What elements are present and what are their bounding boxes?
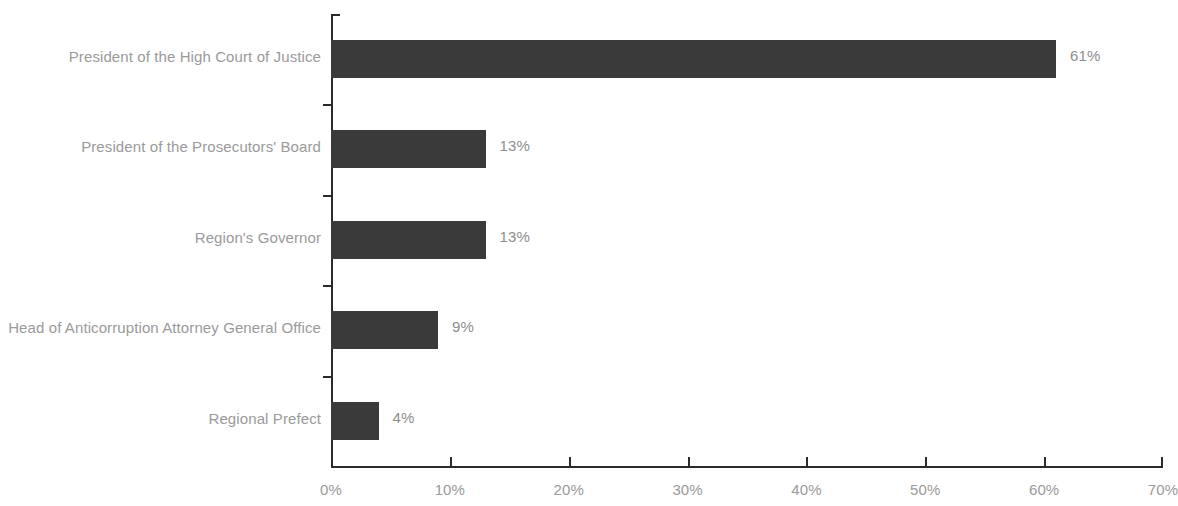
category-label: Head of Anticorruption Attorney General …	[0, 319, 321, 336]
bar	[331, 311, 438, 349]
bar-row: President of the High Court of Justice61…	[0, 14, 1178, 104]
bar-row: President of the Prosecutors' Board13%	[0, 104, 1178, 194]
x-axis-tick-label: 70%	[1148, 481, 1178, 498]
bar-value-label: 13%	[500, 228, 530, 245]
bar-row: Head of Anticorruption Attorney General …	[0, 285, 1178, 375]
bar-chart: President of the High Court of Justice61…	[0, 0, 1178, 506]
category-label-wrap: President of the Prosecutors' Board	[0, 104, 321, 121]
bar	[331, 221, 486, 259]
bar-value-label: 61%	[1070, 47, 1100, 64]
bar-value-label: 9%	[452, 318, 474, 335]
x-axis-tick-label: 30%	[672, 481, 702, 498]
category-label-wrap: President of the High Court of Justice	[0, 14, 321, 31]
category-label: President of the High Court of Justice	[0, 48, 321, 65]
bar	[331, 40, 1056, 78]
bar-row: Region's Governor13%	[0, 195, 1178, 285]
bar	[331, 130, 486, 168]
x-axis-tick-label: 50%	[910, 481, 940, 498]
bar	[331, 402, 379, 440]
x-axis-tick-label: 0%	[320, 481, 342, 498]
category-label: President of the Prosecutors' Board	[0, 138, 321, 155]
bar-value-label: 13%	[500, 137, 530, 154]
x-axis-line	[331, 466, 1163, 468]
x-axis-tick-label: 10%	[435, 481, 465, 498]
bar-value-label: 4%	[393, 409, 415, 426]
category-label-wrap: Region's Governor	[0, 195, 321, 212]
category-label: Region's Governor	[0, 229, 321, 246]
category-label-wrap: Regional Prefect	[0, 376, 321, 393]
category-label-wrap: Head of Anticorruption Attorney General …	[0, 285, 321, 302]
category-label: Regional Prefect	[0, 410, 321, 427]
bar-row: Regional Prefect4%	[0, 376, 1178, 466]
x-axis-tick-label: 40%	[791, 481, 821, 498]
x-axis-tick-label: 60%	[1029, 481, 1059, 498]
x-axis-tick-label: 20%	[554, 481, 584, 498]
